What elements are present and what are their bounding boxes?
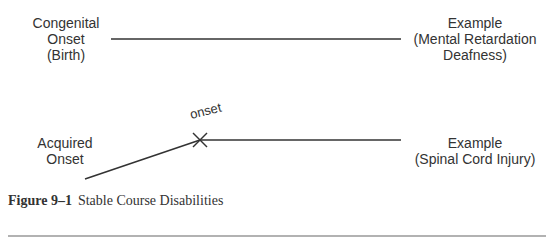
label-line: Acquired (34, 135, 96, 151)
label-line: Onset (34, 151, 96, 167)
label-line: Example (410, 15, 540, 31)
figure-number: Figure 9–1 (8, 193, 72, 208)
acquired-example-label: Example (Spinal Cord Injury) (410, 135, 540, 167)
label-line: Congenital (28, 15, 104, 31)
label-line: Example (410, 135, 540, 151)
label-line: Onset (28, 31, 104, 47)
congenital-onset-label: Congenital Onset (Birth) (28, 15, 104, 63)
label-line: Deafness) (410, 47, 540, 63)
acquired-pre-onset-line (85, 140, 200, 179)
label-line: (Birth) (28, 47, 104, 63)
label-line: (Mental Retardation (410, 31, 540, 47)
figure-title: Stable Course Disabilities (78, 193, 223, 208)
acquired-onset-label: Acquired Onset (34, 135, 96, 167)
figure-caption: Figure 9–1Stable Course Disabilities (8, 193, 223, 209)
congenital-example-label: Example (Mental Retardation Deafness) (410, 15, 540, 63)
label-line: (Spinal Cord Injury) (410, 151, 540, 167)
